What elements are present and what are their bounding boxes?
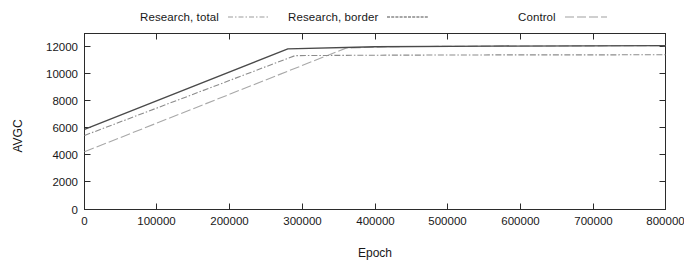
legend-label-control: Control — [518, 11, 556, 23]
legend-swatch-research-border — [387, 12, 429, 22]
y-tick-label: 0 — [72, 204, 78, 216]
chart-series-group — [85, 46, 666, 152]
x-axis-title: Epoch — [358, 246, 392, 260]
y-tick-label: 10000 — [46, 68, 78, 80]
y-tick-label: 6000 — [52, 122, 78, 134]
x-tick-label: 200000 — [210, 215, 248, 227]
x-tick-label: 500000 — [428, 215, 466, 227]
x-tick-label: 0 — [81, 215, 87, 227]
chart-plot-area: AVGC Epoch — [0, 26, 684, 264]
chart-svg: AVGC Epoch — [0, 26, 684, 264]
y-tick-labels: 12000 10000 8000 6000 4000 2000 0 — [46, 41, 78, 216]
x-tick-label: 300000 — [283, 215, 321, 227]
y-tick-label: 8000 — [52, 95, 78, 107]
legend-label-research-total: Research, total — [140, 11, 219, 23]
y-tick-label: 4000 — [52, 149, 78, 161]
x-tick-label: 100000 — [137, 215, 175, 227]
y-axis-title: AVGC — [11, 119, 25, 152]
x-tick-label: 700000 — [574, 215, 612, 227]
legend-swatch-control — [565, 12, 607, 22]
y-tick-marks — [85, 47, 666, 210]
x-tick-label: 600000 — [501, 215, 539, 227]
x-tick-label: 800000 — [646, 215, 684, 227]
chart-figure: Research, total Research, border Control — [0, 0, 684, 264]
series-line-control — [85, 46, 666, 152]
x-tick-labels: 0 100000 200000 300000 400000 500000 600… — [81, 215, 684, 227]
y-tick-label: 12000 — [46, 41, 78, 53]
legend-label-research-border: Research, border — [288, 11, 378, 23]
legend-swatch-research-total — [228, 12, 270, 22]
legend-item-research-total: Research, total — [140, 11, 270, 23]
axis-frame — [85, 34, 666, 210]
legend-item-research-border: Research, border — [288, 11, 429, 23]
x-tick-marks — [85, 34, 666, 210]
legend-item-control: Control — [518, 11, 607, 23]
y-tick-label: 2000 — [52, 176, 78, 188]
x-tick-label: 400000 — [356, 215, 394, 227]
